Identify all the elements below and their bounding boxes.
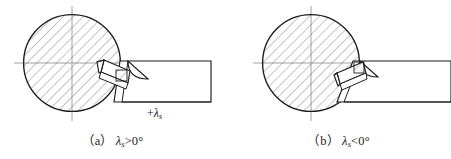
angle-subscript: s [159, 112, 162, 121]
inclination-angle-label-a: +λs [147, 106, 162, 121]
insert-tip-section [116, 70, 127, 81]
caption-relation: <0° [351, 134, 370, 148]
figure-root: +λs （a）λs>0° [0, 0, 451, 159]
caption-prefix: （a） [82, 134, 114, 148]
caption-relation: >0° [125, 134, 144, 148]
caption-a: （a）λs>0° [0, 130, 225, 149]
caption-b: （b）λs<0° [226, 130, 451, 149]
angle-sign: + [147, 106, 154, 120]
diagram-panel-b: −λs （b）λs<0° [226, 0, 451, 159]
diagram-panel-a: +λs （a）λs>0° [0, 0, 225, 159]
caption-prefix: （b） [307, 134, 340, 148]
caption-symbol: λ [340, 134, 348, 148]
insert-tip-section [354, 62, 364, 73]
